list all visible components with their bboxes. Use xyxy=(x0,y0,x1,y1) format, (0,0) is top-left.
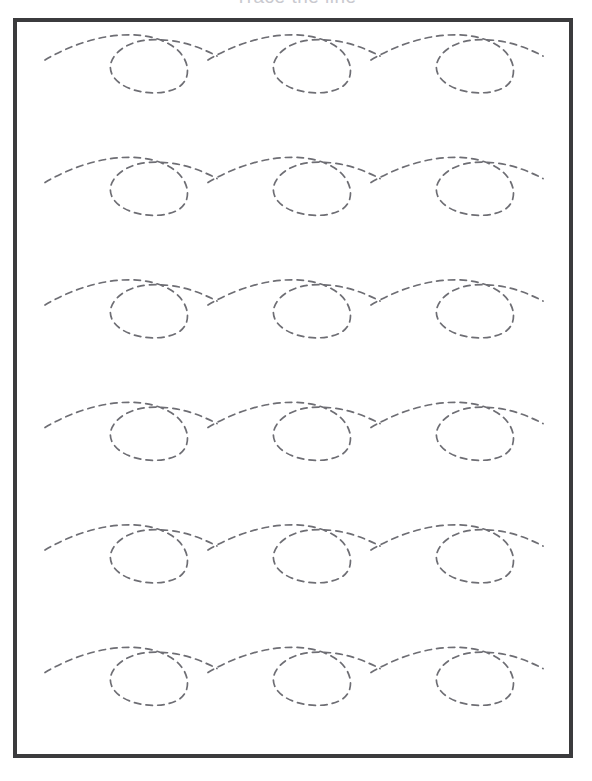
page-title: Trace the line xyxy=(0,0,592,6)
tracing-row-6 xyxy=(45,647,543,705)
trace-loop xyxy=(208,157,380,215)
trace-loop xyxy=(371,280,543,338)
trace-loop xyxy=(45,35,217,93)
tracing-worksheet: Trace the line xyxy=(0,0,592,781)
trace-loop xyxy=(208,280,380,338)
trace-loop xyxy=(45,525,217,583)
trace-loop xyxy=(208,647,380,705)
tracing-rows xyxy=(45,35,543,706)
tracing-svg xyxy=(13,18,573,758)
trace-loop xyxy=(371,402,543,460)
trace-loop xyxy=(208,35,380,93)
trace-loop xyxy=(371,157,543,215)
trace-loop xyxy=(45,647,217,705)
trace-loop xyxy=(208,525,380,583)
tracing-row-3 xyxy=(45,280,543,338)
tracing-row-5 xyxy=(45,525,543,583)
trace-loop xyxy=(371,647,543,705)
trace-loop xyxy=(45,280,217,338)
trace-loop xyxy=(45,157,217,215)
tracing-row-4 xyxy=(45,402,543,460)
trace-loop xyxy=(45,402,217,460)
trace-loop xyxy=(371,525,543,583)
tracing-row-1 xyxy=(45,35,543,93)
trace-loop xyxy=(371,35,543,93)
trace-loop xyxy=(208,402,380,460)
tracing-row-2 xyxy=(45,157,543,215)
tracing-area xyxy=(13,18,573,758)
